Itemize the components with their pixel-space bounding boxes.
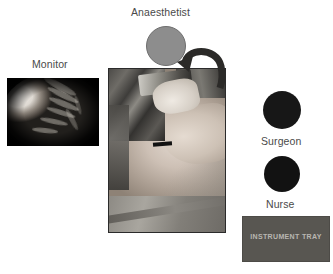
operating-theatre-diagram: Anaesthetist Monitor (0, 0, 333, 274)
equipment-post (109, 105, 129, 190)
nurse-circle[interactable] (264, 156, 300, 192)
patient-photo (109, 69, 225, 232)
scope-vignette (7, 78, 99, 146)
surgeon-label: Surgeon (261, 135, 301, 147)
instrument-tray-label: INSTRUMENT TRAY (243, 233, 329, 240)
nurse-label: Nurse (266, 198, 295, 210)
anaesthetist-arrow-icon (176, 42, 230, 90)
patient-photo-panel[interactable] (108, 68, 226, 233)
monitor-screen[interactable] (7, 78, 99, 146)
surgeon-circle[interactable] (263, 91, 301, 129)
monitor-label: Monitor (32, 58, 68, 70)
anaesthetist-label: Anaesthetist (131, 6, 190, 18)
instrument-tray[interactable]: INSTRUMENT TRAY (242, 216, 330, 262)
